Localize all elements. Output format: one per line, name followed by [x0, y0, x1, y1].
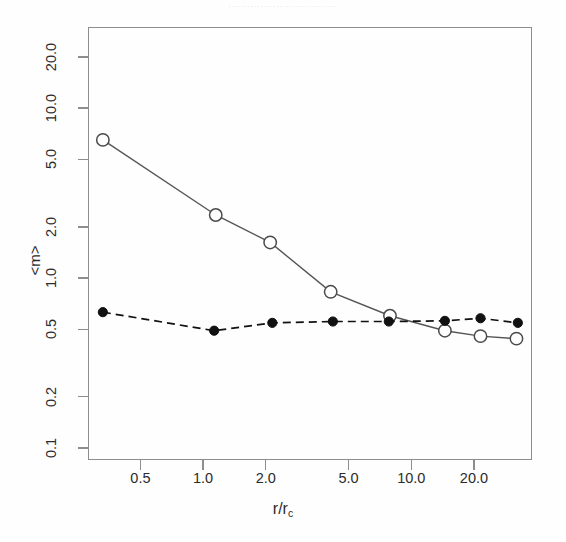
data-point-open-circle: [210, 209, 222, 221]
data-point-open-circle: [510, 332, 522, 344]
data-point-filled-circle: [268, 318, 277, 327]
data-point-filled-circle: [440, 316, 449, 325]
data-series-layer: [0, 0, 566, 542]
data-point-filled-circle: [513, 318, 522, 327]
data-point-open-circle: [264, 236, 276, 248]
series-line-open-circles-solid: [103, 140, 517, 339]
data-point-filled-circle: [476, 314, 485, 323]
data-point-open-circle: [474, 330, 486, 342]
data-point-filled-circle: [210, 326, 219, 335]
data-point-open-circle: [324, 286, 336, 298]
data-point-open-circle: [439, 325, 451, 337]
data-point-open-circle: [97, 134, 109, 146]
data-point-filled-circle: [384, 317, 393, 326]
data-point-filled-circle: [98, 308, 107, 317]
data-point-filled-circle: [328, 317, 337, 326]
scatter-line-plot: 20.010.05.02.01.00.50.20.1 0.51.02.05.01…: [0, 0, 566, 542]
figure-root: .................................. 20.01…: [0, 0, 566, 542]
series-line-filled-circles-dashed: [103, 312, 518, 331]
